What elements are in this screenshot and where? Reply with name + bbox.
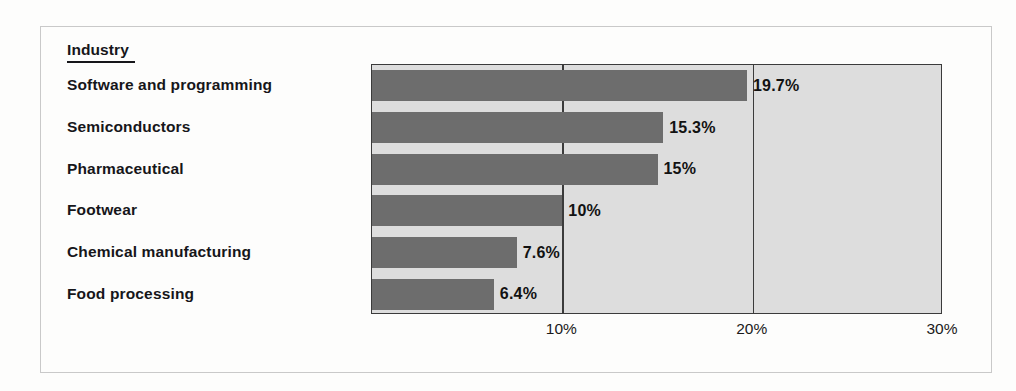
category-label: Food processing xyxy=(67,284,194,303)
bar-row[interactable]: 15.3% xyxy=(372,112,943,143)
category-label: Chemical manufacturing xyxy=(67,242,251,261)
axis-group-heading: Industry xyxy=(67,41,129,59)
bar[interactable] xyxy=(372,237,517,268)
bar[interactable] xyxy=(372,112,663,143)
x-tick-label: 30% xyxy=(926,320,957,338)
bar-value-label: 7.6% xyxy=(523,244,560,262)
plot-area: 19.7%15.3%15%10%7.6%6.4% xyxy=(371,64,942,314)
bar-value-label: 15.3% xyxy=(669,119,715,137)
plot-inner: 19.7%15.3%15%10%7.6%6.4% xyxy=(372,65,941,313)
bar-value-label: 19.7% xyxy=(753,77,799,95)
bar-row[interactable]: 19.7% xyxy=(372,70,943,101)
gridline-10pct xyxy=(562,65,564,313)
category-label: Software and programming xyxy=(67,75,272,94)
bar-row[interactable]: 10% xyxy=(372,195,943,226)
bar-row[interactable]: 7.6% xyxy=(372,237,943,268)
bar-row[interactable]: 15% xyxy=(372,154,943,185)
bar[interactable] xyxy=(372,70,747,101)
category-label: Semiconductors xyxy=(67,117,191,136)
bar[interactable] xyxy=(372,195,562,226)
bar-value-label: 10% xyxy=(568,202,601,220)
bar-value-label: 15% xyxy=(664,160,697,178)
bar-row[interactable]: 6.4% xyxy=(372,279,943,310)
x-tick-label: 10% xyxy=(546,320,577,338)
category-label: Footwear xyxy=(67,200,137,219)
category-label: Pharmaceutical xyxy=(67,159,184,178)
axis-group-heading-underline xyxy=(67,61,135,63)
x-tick-label: 20% xyxy=(736,320,767,338)
bar-value-label: 6.4% xyxy=(500,285,537,303)
bar[interactable] xyxy=(372,279,494,310)
gridline-20pct xyxy=(753,65,755,313)
bar[interactable] xyxy=(372,154,658,185)
